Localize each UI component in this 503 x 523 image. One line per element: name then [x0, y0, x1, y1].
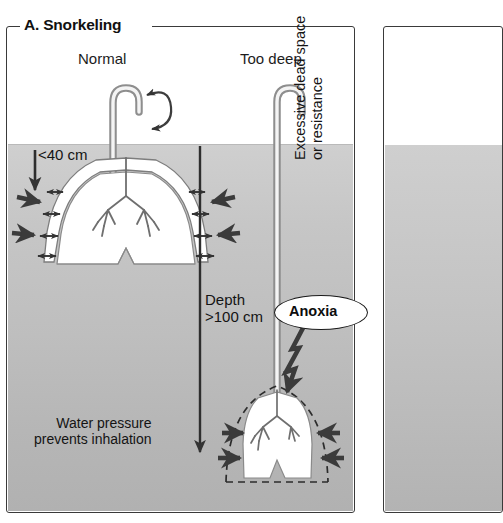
pressure-arrows-normal-left [12, 197, 40, 235]
dead-space-label: Excessive dead space or resistance [292, 16, 325, 160]
normal-snorkeling-illustration [12, 88, 240, 264]
snorkel-depth-label: <40 cm [38, 147, 88, 164]
lightning-bolt-pointer-icon [286, 328, 303, 392]
airflow-arrow-icon [147, 92, 171, 129]
anoxia-label: Anoxia [289, 303, 337, 319]
depth-label: Depth >100 cm [205, 292, 263, 326]
pressure-arrows-normal-right [212, 197, 240, 235]
water-pressure-label: Water pressure prevents inhalation [34, 416, 152, 447]
